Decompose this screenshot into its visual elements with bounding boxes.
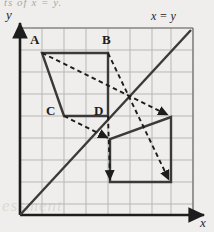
y-axis-label: y <box>6 8 12 21</box>
image-trapezoid <box>110 117 171 182</box>
mirror-line-label: x = y <box>151 10 176 22</box>
point-label-c: C <box>46 104 55 117</box>
point-label-d: D <box>94 104 103 117</box>
mirror-line-x-equals-y <box>20 30 191 215</box>
point-label-b: B <box>102 33 111 46</box>
point-label-a: A <box>30 33 39 46</box>
x-axis-label: x <box>200 216 206 229</box>
